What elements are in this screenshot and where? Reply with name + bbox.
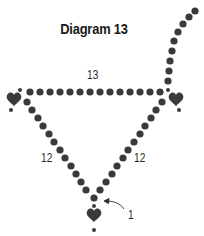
left-count-label: 12: [41, 151, 52, 165]
bottom-heart-icon: [87, 208, 102, 232]
junction-bead: [90, 194, 97, 208]
right-strand: [96, 98, 165, 193]
callout-label: 1: [128, 208, 134, 222]
diagram-canvas: Diagram 13: [0, 0, 204, 236]
tail-strand: [164, 7, 198, 84]
right-heart-icon: [169, 92, 184, 112]
beading-diagram: [0, 0, 204, 236]
right-count-label: 12: [134, 151, 145, 165]
left-heart-icon: [7, 92, 22, 112]
top-count-label: 13: [87, 68, 98, 82]
top-strand: [18, 88, 170, 96]
left-strand: [23, 98, 89, 193]
callout-arrow-icon: [104, 199, 124, 210]
